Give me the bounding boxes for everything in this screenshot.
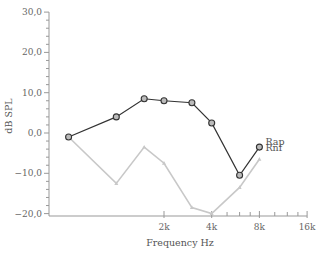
y-tick-label: 10,0 — [22, 88, 42, 98]
data-point-marker — [256, 144, 262, 150]
x-axis: 2k4k8k16k — [49, 211, 316, 232]
y-tick-label: −10,0 — [14, 168, 42, 178]
x-tick-label: 16k — [299, 222, 316, 232]
data-point-marker — [142, 145, 146, 149]
x-tick-label: 8k — [254, 222, 266, 232]
legend-label-rap: Rap — [265, 136, 284, 147]
y-tick-label: 0,0 — [28, 128, 43, 138]
x-tick-label: 2k — [158, 222, 170, 232]
audiogram-chart: 30,020,010,00,0−10,0−20,0 2k4k8k16k dB S… — [0, 0, 319, 253]
data-point-marker — [113, 114, 119, 120]
data-point-marker — [237, 172, 243, 178]
y-tick-label: −20,0 — [14, 209, 42, 219]
y-tick-label: 30,0 — [22, 7, 42, 17]
y-axis-title: dB SPL — [3, 98, 14, 134]
data-point-marker — [209, 120, 215, 126]
y-axis: 30,020,010,00,0−10,0−20,0 — [14, 7, 49, 219]
data-point-marker — [189, 100, 195, 106]
series-layer: RnfRap — [66, 96, 285, 215]
x-tick-label: 4k — [206, 222, 218, 232]
data-point-marker — [141, 96, 147, 102]
data-point-marker — [161, 98, 167, 104]
x-axis-title: Frequency Hz — [146, 237, 214, 248]
data-point-marker — [257, 157, 261, 161]
series-rnf: Rnf — [67, 135, 284, 215]
data-point-marker — [66, 134, 72, 140]
y-tick-label: 20,0 — [22, 47, 42, 57]
